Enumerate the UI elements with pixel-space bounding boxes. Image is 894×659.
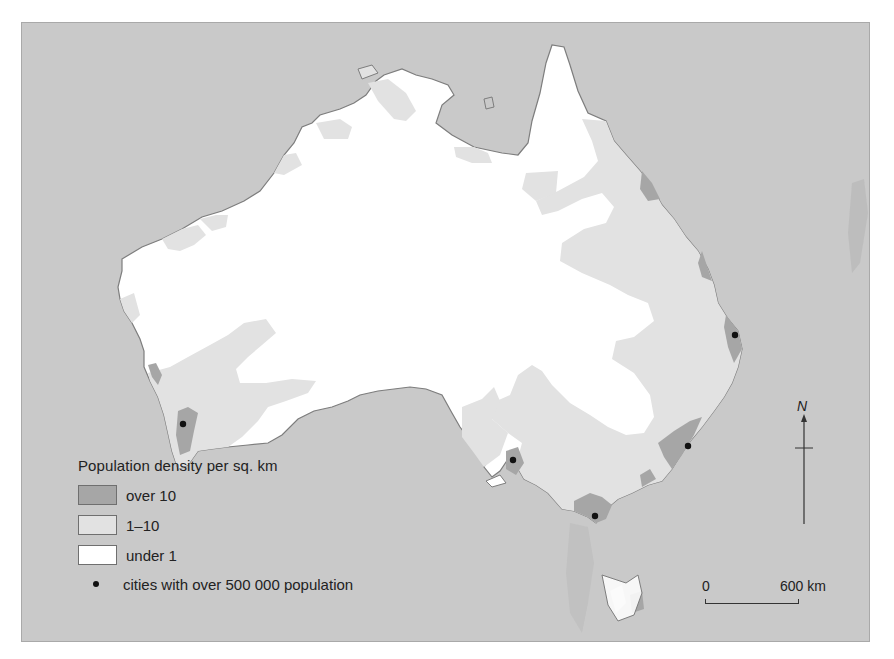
melville-island (358, 65, 378, 79)
legend-title: Population density per sq. km (78, 457, 353, 474)
scale-bar: 0 600 km (700, 578, 850, 618)
legend-label: cities with over 500 000 population (123, 576, 353, 593)
legend-label: under 1 (126, 547, 177, 564)
legend-item-cities: cities with over 500 000 population (78, 570, 353, 598)
scale-start-label: 0 (702, 578, 710, 594)
swatch-1-10 (78, 515, 117, 535)
kangaroo-island (486, 475, 506, 487)
swatch-under-1 (78, 545, 117, 565)
swatch-over-10 (78, 485, 117, 505)
city-brisbane (732, 332, 738, 338)
city-dot-icon (93, 581, 99, 587)
legend-label: over 10 (126, 487, 176, 504)
legend-item-1-10: 1–10 (78, 510, 353, 540)
scale-end-label: 600 km (780, 578, 826, 594)
city-sydney (685, 443, 691, 449)
nz-edge-shading (848, 179, 868, 273)
legend-item-under-1: under 1 (78, 540, 353, 570)
groote-island (484, 97, 494, 109)
legend-item-over-10: over 10 (78, 480, 353, 510)
north-arrow-icon (794, 412, 814, 542)
legend: Population density per sq. km over 10 1–… (78, 457, 353, 598)
city-melbourne (592, 513, 598, 519)
scale-bar-line (705, 599, 799, 604)
legend-label: 1–10 (126, 517, 159, 534)
sea-shading (566, 523, 594, 633)
tasmania (602, 575, 642, 621)
city-perth (180, 421, 186, 427)
city-adelaide (510, 457, 516, 463)
north-arrow: N (794, 398, 814, 528)
